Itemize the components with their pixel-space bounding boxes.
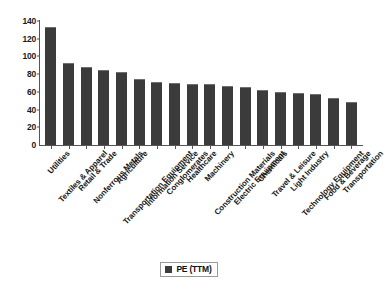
bar [346,102,357,145]
bar-slot [77,21,95,145]
bar [222,86,233,145]
x-axis-category-label: Utilities [46,149,72,176]
x-axis-tick-mark [334,146,335,149]
bar-slot [289,21,307,145]
bar-slot [219,21,237,145]
bar-slot [95,21,113,145]
x-axis-tick-mark [122,146,123,149]
x-axis-tick-mark [104,146,105,149]
x-axis-tick-mark [157,146,158,149]
bar-slot [183,21,201,145]
bar-slot [236,21,254,145]
bar-slot [307,21,325,145]
bar-slot [166,21,184,145]
bar [328,98,339,145]
bar [257,90,268,145]
bar-slot [148,21,166,145]
bar-slot [60,21,78,145]
x-axis-tick-mark [86,146,87,149]
bar-slot [113,21,131,145]
bar [98,70,109,145]
bar-slot [342,21,360,145]
bar-slot [130,21,148,145]
bar [240,87,251,145]
legend-label: PE (TTM) [176,264,211,274]
chart-legend: PE (TTM) [0,262,378,277]
x-axis-tick-mark [69,146,70,149]
x-axis-tick-mark [263,146,264,149]
y-axis-tick-label: 0 [31,140,40,150]
x-axis-tick-mark [175,146,176,149]
bar [169,83,180,145]
x-axis-tick-mark [51,146,52,149]
legend-box: PE (TTM) [160,262,217,277]
bar [63,63,74,145]
bar [275,92,286,145]
bar [81,67,92,145]
bar [187,84,198,145]
bar [134,79,145,145]
x-axis-line [39,145,363,146]
bar-slot [254,21,272,145]
bar-slot [201,21,219,145]
x-axis-tick-mark [298,146,299,149]
bar-slot [325,21,343,145]
x-axis-tick-mark [316,146,317,149]
bar-slot [42,21,60,145]
bar [116,72,127,145]
bar-slot [272,21,290,145]
bar [310,94,321,145]
x-axis-tick-mark [245,146,246,149]
bar [293,93,304,145]
x-axis-tick-mark [351,146,352,149]
bar [204,84,215,145]
plot-area: 140120100806040200 [40,21,362,145]
bar [151,82,162,145]
bar-series-pe-ttm [40,21,362,145]
bar [45,27,56,145]
legend-swatch-icon [165,266,172,273]
